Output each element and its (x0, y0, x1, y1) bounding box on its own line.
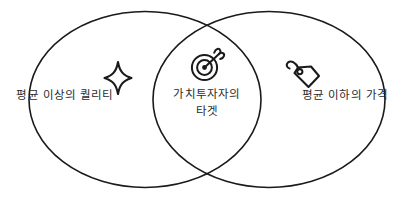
venn-label-intersection-line1: 가치투자자의 (152, 86, 262, 103)
venn-label-intersection-line2: 타겟 (152, 103, 262, 120)
venn-label-left: 평균 이상의 퀄리티 (2, 88, 128, 103)
target-arrow-icon (192, 49, 224, 80)
venn-diagram: 평균 이상의 퀄리티 가치투자자의 타겟 평균 이하의 가격 (0, 0, 409, 204)
venn-label-right: 평균 이하의 가격 (282, 88, 408, 103)
price-tag-icon (287, 62, 319, 87)
venn-label-intersection: 가치투자자의 타겟 (152, 86, 262, 120)
